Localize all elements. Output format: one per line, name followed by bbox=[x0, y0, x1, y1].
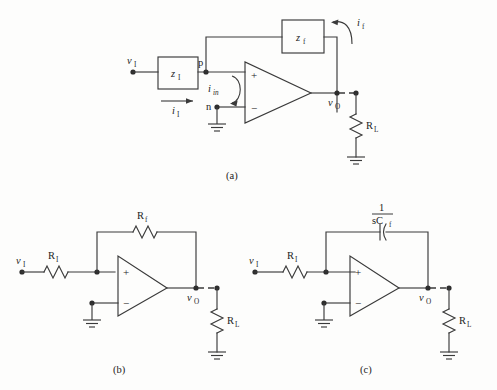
panel-c-opamp-plus: + bbox=[355, 266, 361, 278]
panel-c-input-resistor-label: R bbox=[287, 250, 294, 261]
panel-c-load-label-sub: L bbox=[467, 321, 471, 329]
panel-a-input-impedance-block bbox=[158, 57, 198, 89]
panel-a-current-if-label: i bbox=[357, 17, 360, 28]
panel-a-input-label: v bbox=[127, 55, 132, 66]
panel-c-output-node bbox=[425, 285, 430, 290]
panel-a: v I z I i I p z f i f + − bbox=[127, 17, 378, 182]
panel-c: v I R I 1 sC f + − v O bbox=[249, 202, 471, 376]
panel-a-load-label-sub: L bbox=[374, 126, 378, 134]
panel-c-input-resistor bbox=[283, 266, 307, 278]
panel-a-current-iin-label-sub: in bbox=[213, 89, 219, 97]
panel-c-input-label-sub: I bbox=[256, 261, 259, 269]
panel-c-input-label: v bbox=[249, 255, 254, 266]
panel-a-zf-label: z bbox=[295, 32, 300, 43]
panel-c-output-label-sub: O bbox=[426, 298, 431, 306]
panel-a-current-if-label-sub: f bbox=[362, 23, 365, 31]
panel-c-feedback-denominator-sub: f bbox=[389, 221, 392, 229]
panel-a-feedback-impedance-block bbox=[282, 20, 324, 53]
panel-c-feedback-denominator: sC bbox=[372, 215, 383, 226]
panel-b-feedback-resistor-label-sub: f bbox=[145, 216, 148, 224]
panel-c-output-label: v bbox=[419, 292, 424, 303]
panel-a-current-i1-arrowhead bbox=[186, 98, 193, 104]
panel-b-caption: (b) bbox=[113, 364, 126, 376]
panel-a-output-node bbox=[334, 90, 339, 95]
panel-a-opamp-plus: + bbox=[251, 69, 257, 81]
panel-b-wire-rf-to-output bbox=[157, 232, 196, 288]
panel-a-zf-label-sub: f bbox=[303, 38, 306, 46]
panel-a-load-label: R bbox=[366, 120, 373, 131]
panel-a-zi-label-sub: I bbox=[178, 74, 181, 82]
panel-c-load-resistor bbox=[443, 309, 455, 333]
panel-c-wire-node-to-cap bbox=[326, 232, 380, 272]
panel-b-feedback-resistor-label: R bbox=[137, 210, 144, 221]
panel-b-input-resistor-label-sub: I bbox=[56, 256, 59, 264]
panel-a-current-if-curve bbox=[333, 22, 352, 44]
panel-a-current-iin-curve bbox=[232, 76, 240, 103]
panel-b-output-label-sub: O bbox=[194, 298, 199, 306]
panel-a-current-iin-arrowhead bbox=[230, 101, 238, 107]
panel-b-opamp-minus: − bbox=[123, 297, 129, 309]
panel-a-zi-label: z bbox=[170, 68, 175, 79]
panel-b: v I R I R f + − v O bbox=[16, 210, 239, 376]
panel-b-load-resistor bbox=[211, 309, 223, 333]
panel-a-wire-p-to-zf bbox=[206, 37, 282, 72]
panel-b-output-label: v bbox=[187, 292, 192, 303]
panel-a-output-label-sub: O bbox=[335, 103, 340, 111]
panel-b-input-resistor bbox=[44, 266, 68, 278]
panel-b-input-label-sub: I bbox=[23, 261, 26, 269]
panel-b-input-resistor-label: R bbox=[48, 250, 55, 261]
panel-b-feedback-resistor bbox=[133, 226, 157, 238]
panel-b-opamp-plus: + bbox=[123, 266, 129, 278]
panel-c-caption: (c) bbox=[360, 364, 372, 376]
panel-a-opamp-minus: − bbox=[251, 102, 257, 114]
panel-a-current-i1-label: i bbox=[172, 105, 175, 116]
panel-c-input-resistor-label-sub: I bbox=[295, 256, 298, 264]
panel-a-output-label: v bbox=[328, 97, 333, 108]
circuit-svg: v I z I i I p z f i f + − bbox=[0, 0, 497, 390]
panel-c-wire-cap-to-output bbox=[386, 232, 428, 288]
panel-c-load-label: R bbox=[459, 315, 466, 326]
panel-a-current-i1-label-sub: I bbox=[177, 111, 180, 119]
circuit-figure: v I z I i I p z f i f + − bbox=[0, 0, 497, 390]
panel-b-input-label: v bbox=[16, 255, 21, 266]
panel-a-node-p-label: p bbox=[198, 57, 203, 68]
panel-a-current-if-arrowhead bbox=[331, 19, 338, 25]
panel-a-caption: (a) bbox=[226, 170, 238, 182]
panel-c-feedback-numerator: 1 bbox=[379, 202, 384, 213]
panel-c-opamp-minus: − bbox=[355, 297, 361, 309]
panel-b-output-node bbox=[193, 285, 198, 290]
panel-a-current-iin-label: i bbox=[208, 83, 211, 94]
panel-b-load-label: R bbox=[227, 315, 234, 326]
panel-a-load-resistor bbox=[350, 114, 362, 138]
panel-b-load-label-sub: L bbox=[235, 321, 239, 329]
panel-a-node-n-label: n bbox=[206, 101, 212, 112]
panel-a-input-label-sub: I bbox=[134, 61, 137, 69]
